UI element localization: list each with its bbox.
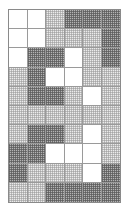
grid-cell bbox=[28, 144, 47, 163]
grid-cell bbox=[9, 29, 28, 48]
grid-table bbox=[9, 10, 120, 202]
grid-cell bbox=[102, 68, 121, 87]
grid-cell bbox=[83, 125, 102, 144]
grid-cell bbox=[65, 29, 84, 48]
grid-cell bbox=[102, 87, 121, 106]
grid-cell bbox=[65, 48, 84, 67]
grid-cell bbox=[83, 68, 102, 87]
grid-cell bbox=[102, 144, 121, 163]
grid-cell bbox=[9, 87, 28, 106]
grid-cell bbox=[28, 48, 47, 67]
grid-cell bbox=[102, 164, 121, 183]
grid-cell bbox=[65, 164, 84, 183]
grid-cell bbox=[65, 125, 84, 144]
grid-cell bbox=[28, 164, 47, 183]
grid-cell bbox=[83, 183, 102, 202]
grid-cell bbox=[9, 164, 28, 183]
grid-cell bbox=[102, 48, 121, 67]
grid-cell bbox=[46, 183, 65, 202]
grid-cell bbox=[65, 10, 84, 29]
grid-cell bbox=[102, 10, 121, 29]
screenshot-root bbox=[0, 0, 129, 213]
grid-cell bbox=[46, 164, 65, 183]
grid-cell bbox=[102, 125, 121, 144]
grid-cell bbox=[65, 183, 84, 202]
grid-cell bbox=[65, 106, 84, 125]
grid-cell bbox=[9, 68, 28, 87]
grid-cell bbox=[28, 106, 47, 125]
grid-cell bbox=[46, 29, 65, 48]
grid-cell bbox=[83, 106, 102, 125]
grid-cell bbox=[9, 106, 28, 125]
grid-cell bbox=[46, 48, 65, 67]
grid-cell bbox=[83, 87, 102, 106]
grid-cell bbox=[9, 183, 28, 202]
grid-cell bbox=[102, 183, 121, 202]
grid-cell bbox=[28, 68, 47, 87]
grid-cell bbox=[83, 29, 102, 48]
grid-cell bbox=[9, 10, 28, 29]
grid-cell bbox=[46, 10, 65, 29]
grid-cell bbox=[28, 87, 47, 106]
grid-cell bbox=[28, 183, 47, 202]
grid-cell bbox=[46, 106, 65, 125]
grid-cell bbox=[65, 144, 84, 163]
grid-cell bbox=[83, 144, 102, 163]
grid-cell bbox=[28, 10, 47, 29]
grid-figure bbox=[8, 9, 121, 203]
grid-cell bbox=[83, 10, 102, 29]
grid-cell bbox=[28, 29, 47, 48]
grid-cell bbox=[65, 87, 84, 106]
grid-cell bbox=[46, 68, 65, 87]
grid-cell bbox=[102, 106, 121, 125]
grid-cell bbox=[83, 48, 102, 67]
grid-cell bbox=[9, 125, 28, 144]
grid-cell bbox=[46, 125, 65, 144]
grid-cell bbox=[9, 144, 28, 163]
grid-cell bbox=[46, 87, 65, 106]
grid-cell bbox=[102, 29, 121, 48]
grid-cell bbox=[28, 125, 47, 144]
grid-cell bbox=[83, 164, 102, 183]
grid-cell bbox=[65, 68, 84, 87]
grid-cell bbox=[9, 48, 28, 67]
grid-cell bbox=[46, 144, 65, 163]
